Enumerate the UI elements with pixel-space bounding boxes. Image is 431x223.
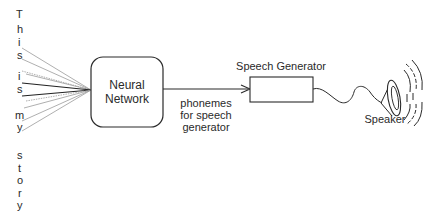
neural-speech-diagram: T h i s i s m y s t o r y Neural Network… (0, 0, 431, 223)
letter-t: t (18, 162, 21, 174)
speaker-label: Speaker (365, 113, 406, 125)
letter-T: T (16, 8, 23, 20)
letter-i: i (18, 36, 20, 48)
speech-generator-block: Speech Generator (236, 60, 326, 102)
connection-line (22, 59, 91, 90)
arrow-label-line3: generator (182, 121, 229, 133)
input-connections (22, 48, 91, 131)
speech-generator-box (250, 77, 313, 102)
phoneme-arrow: phonemes for speech generator (163, 85, 250, 133)
arrow-label-line1: phonemes (180, 97, 232, 109)
neural-network-label-line2: Network (105, 92, 150, 106)
letter-y: y (17, 121, 23, 133)
neural-network-block: Neural Network (91, 57, 163, 127)
letter-s: s (17, 149, 23, 161)
input-letters: T h i s i s m y s t o r y (15, 8, 24, 211)
neural-network-label-line1: Neural (109, 78, 144, 92)
speaker-icon (381, 79, 403, 117)
letter-h: h (17, 23, 23, 35)
sound-waves-icon (404, 60, 422, 126)
letter-m: m (15, 109, 24, 121)
letter-o: o (17, 174, 23, 186)
speech-generator-label: Speech Generator (236, 60, 326, 72)
letter-r: r (18, 187, 22, 199)
letter-s: s (17, 83, 23, 95)
arrow-label-line2: for speech (180, 109, 231, 121)
speaker-block: Speaker (365, 60, 423, 126)
letter-y: y (17, 199, 23, 211)
connection-line (26, 74, 91, 90)
speaker-wire (313, 86, 382, 103)
letter-i: i (18, 70, 20, 82)
